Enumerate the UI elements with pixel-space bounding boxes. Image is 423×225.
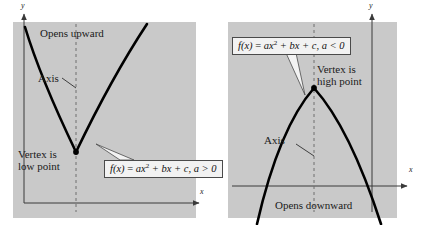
- formula-left-equals: =: [127, 163, 133, 174]
- vertex-label-left-line1: Vertex is: [18, 148, 60, 160]
- opens-upward-label: Opens upward: [40, 27, 104, 39]
- vertex-label-left-line2: low point: [18, 160, 60, 172]
- axis-label-right: Axis: [264, 134, 285, 146]
- formula-left-a-term: ax: [136, 163, 146, 174]
- axis-label-left: Axis: [38, 72, 59, 84]
- y-axis-name-right: y: [369, 2, 373, 11]
- formula-right-fn: f(x): [238, 40, 253, 51]
- vertex-label-right-line1: Vertex is: [317, 63, 362, 75]
- x-axis-name-left: x: [200, 188, 204, 197]
- formula-callout-left: f(x) = ax2 + bx + c, a > 0: [104, 160, 223, 178]
- opens-downward-label: Opens downward: [275, 199, 352, 211]
- formula-right-b-term: + bx + c,: [280, 40, 319, 51]
- vertex-label-left: Vertex is low point: [18, 148, 60, 173]
- panel-left-background: [13, 22, 196, 218]
- formula-callout-right: f(x) = ax2 + bx + c, a < 0: [232, 37, 351, 55]
- formula-left-b-term: + bx + c,: [152, 163, 191, 174]
- y-axis-name-left: y: [21, 2, 25, 11]
- formula-right-exponent: 2: [274, 39, 278, 47]
- formula-right-a-term: ax: [264, 40, 274, 51]
- formula-left-exponent: 2: [146, 162, 150, 170]
- formula-right-equals: =: [255, 40, 261, 51]
- formula-right-condition: a < 0: [322, 40, 345, 51]
- x-axis-name-right: x: [409, 166, 413, 175]
- vertex-label-right-line2: high point: [317, 75, 362, 87]
- formula-left-fn: f(x): [110, 163, 125, 174]
- vertex-label-right: Vertex is high point: [317, 63, 362, 88]
- parabola-figure: Opens upward Axis Vertex is low point y …: [0, 0, 423, 225]
- formula-left-condition: a > 0: [194, 163, 217, 174]
